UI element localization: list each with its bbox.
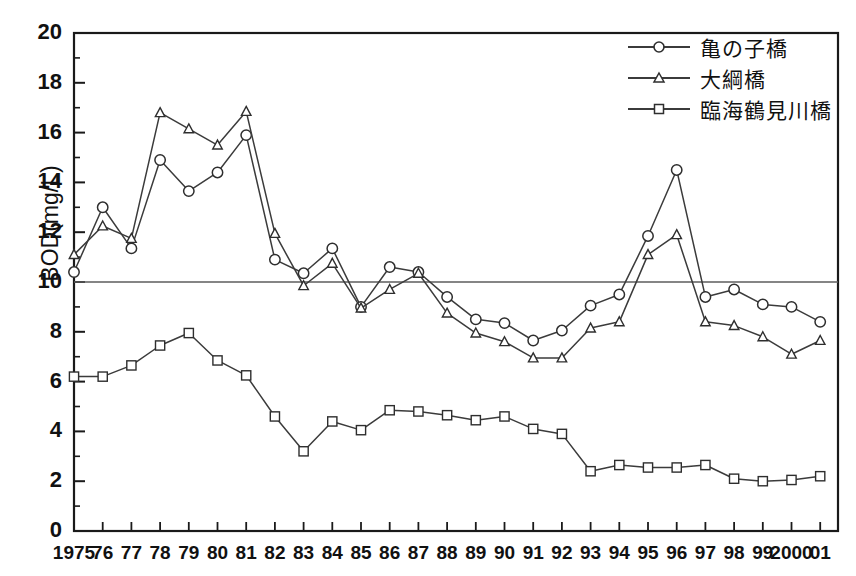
data-point-square — [270, 412, 279, 421]
data-point-square — [328, 417, 337, 426]
data-point-triangle — [643, 250, 653, 259]
data-point-circle — [69, 267, 79, 277]
data-point-circle — [471, 314, 481, 324]
data-point-triangle — [241, 106, 251, 115]
data-point-square — [787, 475, 796, 484]
data-point-square — [98, 372, 107, 381]
data-point-square — [184, 328, 193, 337]
data-point-circle — [184, 186, 194, 196]
data-point-square — [758, 477, 767, 486]
data-point-circle — [815, 317, 825, 327]
data-point-triangle — [155, 108, 165, 117]
data-point-triangle — [98, 221, 108, 230]
data-point-circle — [241, 130, 251, 140]
data-point-circle — [786, 302, 796, 312]
data-point-square — [615, 460, 624, 469]
y-axis-tick-label: 16 — [22, 119, 62, 145]
data-point-circle — [585, 300, 595, 310]
data-point-circle — [729, 284, 739, 294]
y-axis-tick-label: 8 — [22, 318, 62, 344]
y-axis-tick-label: 14 — [22, 168, 62, 194]
data-point-square — [385, 406, 394, 415]
data-point-square — [156, 341, 165, 350]
data-point-triangle — [270, 228, 280, 237]
data-point-square — [213, 356, 222, 365]
data-point-circle — [126, 243, 136, 253]
y-axis-tick-label: 12 — [22, 218, 62, 244]
data-point-circle — [643, 231, 653, 241]
data-point-square — [242, 371, 251, 380]
data-point-triangle — [184, 124, 194, 133]
data-point-square — [500, 412, 509, 421]
legend-item-rinkaitsurumigawabashi[interactable]: 臨海鶴見川橋 — [626, 93, 838, 124]
data-point-triangle — [615, 317, 625, 326]
x-axis-tick-label: 01 — [803, 542, 837, 564]
legend: 亀の子橋 大綱橋 臨海鶴見川橋 — [626, 27, 838, 128]
data-point-circle — [499, 318, 509, 328]
data-point-triangle — [385, 284, 395, 293]
data-point-circle — [442, 292, 452, 302]
data-point-circle — [385, 262, 395, 272]
data-point-circle — [614, 289, 624, 299]
legend-item-otsunabashi[interactable]: 大綱橋 — [626, 62, 838, 93]
data-point-square — [356, 426, 365, 435]
data-point-square — [730, 474, 739, 483]
y-axis-tick-label: 18 — [22, 69, 62, 95]
data-point-square — [586, 467, 595, 476]
data-point-circle — [528, 335, 538, 345]
data-point-circle — [270, 254, 280, 264]
data-point-square — [701, 460, 710, 469]
data-point-triangle — [701, 317, 711, 326]
legend-item-kamenokobashi[interactable]: 亀の子橋 — [626, 31, 838, 62]
legend-label: 大綱橋 — [692, 63, 766, 93]
data-point-square — [299, 447, 308, 456]
data-point-triangle — [328, 258, 338, 267]
y-axis-tick-label: 2 — [22, 467, 62, 493]
data-point-circle — [672, 165, 682, 175]
data-point-triangle — [815, 336, 825, 345]
y-axis-tick-label: 10 — [22, 268, 62, 294]
data-point-circle — [700, 292, 710, 302]
data-point-triangle — [471, 328, 481, 337]
data-point-circle — [557, 325, 567, 335]
data-point-circle — [155, 155, 165, 165]
data-point-square — [443, 411, 452, 420]
legend-label: 亀の子橋 — [692, 32, 788, 62]
data-point-triangle — [787, 349, 797, 358]
data-point-circle — [212, 167, 222, 177]
bod-line-chart: BOD(mg/L) 02468101214161820 197576777879… — [0, 0, 856, 576]
data-point-square — [672, 463, 681, 472]
data-point-circle — [758, 299, 768, 309]
data-point-circle — [98, 202, 108, 212]
y-axis-tick-label: 20 — [22, 19, 62, 45]
data-point-square — [643, 463, 652, 472]
legend-label: 臨海鶴見川橋 — [692, 94, 832, 124]
data-point-circle — [298, 268, 308, 278]
data-point-square — [69, 372, 78, 381]
legend-triangle-marker-icon — [626, 68, 692, 88]
data-point-square — [127, 361, 136, 370]
data-point-square — [557, 429, 566, 438]
data-point-square — [529, 424, 538, 433]
data-point-square — [414, 407, 423, 416]
series-line-2 — [74, 333, 820, 481]
data-point-square — [816, 472, 825, 481]
y-axis-tick-label: 4 — [22, 417, 62, 443]
y-axis-tick-label: 6 — [22, 368, 62, 394]
y-axis-tick-label: 0 — [22, 517, 62, 543]
data-point-circle — [327, 243, 337, 253]
legend-circle-marker-icon — [626, 37, 692, 57]
data-point-square — [471, 416, 480, 425]
data-point-triangle — [672, 230, 682, 239]
legend-square-marker-icon — [626, 99, 692, 119]
